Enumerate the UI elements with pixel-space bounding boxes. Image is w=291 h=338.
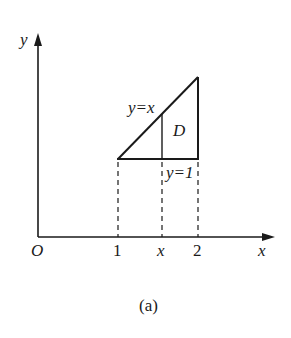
y-axis-label: y	[18, 30, 28, 49]
x-axis-label: x	[257, 241, 266, 260]
label-y-equals-x: y=x	[126, 98, 155, 117]
tick-label-1: 1	[113, 241, 122, 260]
tick-label-2: 2	[193, 241, 202, 260]
tick-label-x: x	[156, 241, 165, 260]
y-axis-arrow-icon	[34, 33, 42, 46]
figure-caption: (a)	[139, 296, 158, 315]
x-axis-arrow-icon	[262, 233, 275, 241]
origin-label: O	[31, 241, 43, 260]
diagram-canvas: y x O 1 x 2 y=x y=1 D (a)	[0, 0, 291, 338]
label-y-equals-1: y=1	[164, 163, 194, 182]
line-y-equals-x	[118, 77, 198, 159]
region-label-D: D	[172, 121, 186, 140]
